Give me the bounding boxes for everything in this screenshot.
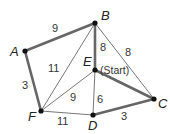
vertex-label-f: F [28,109,37,124]
vertex-b [92,20,97,25]
vertex-c [151,96,156,101]
vertex-label-d: D [88,118,97,133]
weight-a-b: 9 [52,22,58,34]
edge-e-d [93,70,95,115]
vertex-label-a: A [9,44,19,59]
weight-f-b: 11 [48,62,59,74]
weighted-graph-diagram: 93881196113 ABECFD (Start) [0,0,170,134]
vertex-label-c: C [158,96,168,111]
weight-b-e: 8 [100,41,106,53]
vertex-label-e: E [83,54,92,69]
edge-b-c [95,23,154,99]
edge-a-b [25,23,95,51]
vertex-e [92,67,97,72]
weight-f-e: 9 [70,91,76,103]
graph-edges [25,23,154,115]
weight-e-d: 6 [97,93,103,105]
weight-a-f: 3 [22,79,28,91]
weight-f-d: 11 [57,115,68,127]
start-label: (Start) [100,64,129,76]
edge-f-e [41,70,95,111]
weight-d-c: 3 [121,110,127,122]
vertex-label-b: B [101,8,110,23]
weight-b-c: 8 [125,46,131,58]
vertex-f [38,108,43,113]
vertex-d [90,112,95,117]
vertex-a [22,48,27,53]
